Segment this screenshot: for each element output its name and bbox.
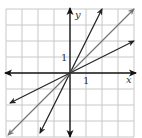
x-tick-label-1: 1 [83,75,89,86]
coordinate-plane-chart: y x 1 1 [0,0,142,138]
x-axis-label: x [126,74,132,85]
y-axis-label: y [74,9,81,20]
data-lines [8,9,134,135]
shallow-line-neg [10,73,70,103]
y-tick-label-1: 1 [61,52,67,63]
steep-line-neg [40,73,70,133]
medium-line-neg [8,73,70,135]
